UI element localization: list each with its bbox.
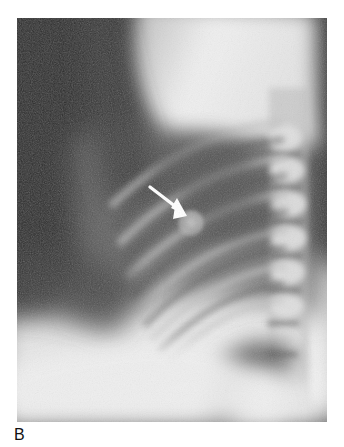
figure-panel: B (0, 0, 344, 447)
radiograph-canvas (17, 18, 327, 422)
lateral-chest-radiograph[interactable] (17, 18, 327, 422)
panel-label: B (14, 426, 25, 444)
